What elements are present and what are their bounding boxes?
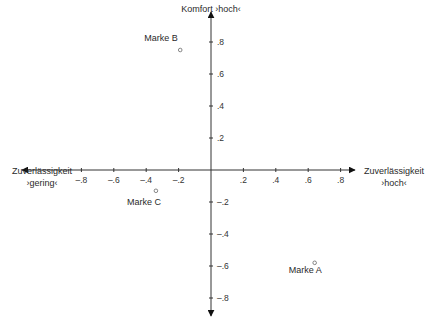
data-point-marker xyxy=(178,48,182,52)
svg-text:Zuverlässigkeit: Zuverlässigkeit xyxy=(12,166,73,176)
y-tick-label: –.2 xyxy=(217,197,229,207)
data-point-label: Marke C xyxy=(127,197,162,207)
x-tick-label: –.2 xyxy=(173,175,185,185)
x-tick-label: .4 xyxy=(272,175,279,185)
data-point-label: Marke A xyxy=(289,265,322,275)
svg-text:›gering‹: ›gering‹ xyxy=(26,178,57,188)
x-tick-label: –.6 xyxy=(108,175,120,185)
x-axis-ticks: –.8–.6–.4–.2.2.4.6.8 xyxy=(75,168,344,185)
y-tick-label: .6 xyxy=(217,69,224,79)
y-axis-label: Komfort ›hoch‹ xyxy=(181,4,241,14)
x-tick-label: .6 xyxy=(305,175,312,185)
x-axis-label-right: Zuverlässigkeit ›hoch‹ xyxy=(364,166,425,188)
svg-text:Zuverlässigkeit: Zuverlässigkeit xyxy=(364,166,425,176)
x-tick-label: .8 xyxy=(337,175,344,185)
y-tick-label: .4 xyxy=(217,101,224,111)
data-point-marker xyxy=(154,189,158,193)
svg-text:›hoch‹: ›hoch‹ xyxy=(381,178,407,188)
y-tick-label: –.6 xyxy=(217,261,229,271)
x-tick-label: –.8 xyxy=(75,175,87,185)
y-tick-label: –.4 xyxy=(217,229,229,239)
x-axis-label-left: Zuverlässigkeit ›gering‹ xyxy=(12,166,73,188)
y-tick-label: .2 xyxy=(217,133,224,143)
perceptual-map-chart: –.8–.6–.4–.2.2.4.6.8 .8.6.4.2–.2–.4–.6–.… xyxy=(0,0,427,322)
y-tick-label: .8 xyxy=(217,37,224,47)
x-tick-label: –.4 xyxy=(140,175,152,185)
x-tick-label: .2 xyxy=(240,175,247,185)
y-tick-label: –.8 xyxy=(217,293,229,303)
data-point-label: Marke B xyxy=(144,33,178,43)
